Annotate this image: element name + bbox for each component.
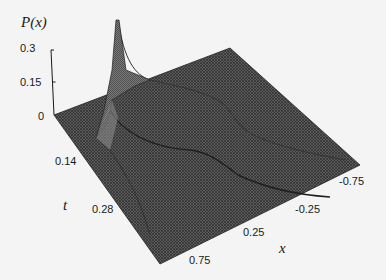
z-axis-label: P(x) (21, 14, 47, 31)
t-tick-0.28: 0.28 (92, 203, 113, 215)
surface-mesh (54, 48, 360, 264)
z-tick-0.3: 0.3 (20, 42, 35, 54)
surface-plot (0, 0, 386, 280)
x-tick-0.75: 0.75 (189, 254, 210, 266)
z-tick-0.15: 0.15 (20, 76, 41, 88)
t-axis-label: t (63, 197, 67, 214)
x-axis-label: x (279, 240, 286, 257)
x-tick--0.25: -0.25 (295, 203, 320, 215)
x-tick--0.75: -0.75 (339, 175, 364, 187)
z-tick-0: 0 (38, 110, 44, 122)
x-tick-0.25: 0.25 (243, 226, 264, 238)
t-tick-0.14: 0.14 (55, 155, 76, 167)
